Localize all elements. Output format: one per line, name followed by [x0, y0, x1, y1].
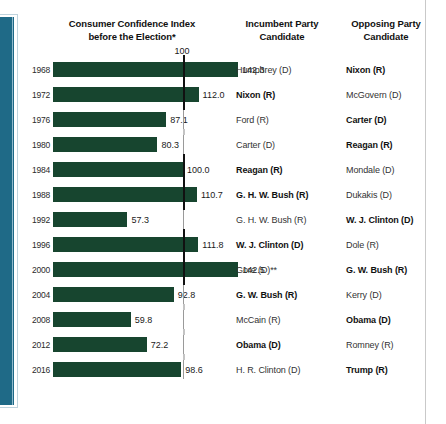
row-year-label: 2000 — [22, 265, 50, 275]
bar — [53, 62, 238, 77]
opposing-candidate: McGovern (D) — [346, 90, 401, 100]
table-row: 200859.8McCain (R)Obama (D) — [0, 308, 446, 333]
bar — [53, 212, 127, 227]
incumbent-candidate: Reagan (R) — [236, 165, 283, 175]
incumbent-candidate: G. H. W. Bush (R) — [236, 190, 308, 200]
bar — [53, 312, 131, 327]
opposing-candidate: W. J. Clinton (D) — [346, 215, 413, 225]
table-row: 2000142.5Gore (D)**G. W. Bush (R) — [0, 258, 446, 283]
bar — [53, 112, 166, 127]
opposing-candidate: Reagan (R) — [346, 140, 393, 150]
table-row: 1972112.0Nixon (R)McGovern (D) — [0, 83, 446, 108]
opposing-candidate: Mondale (D) — [346, 165, 394, 175]
table-row: 197687.1Ford (R)Carter (D) — [0, 108, 446, 133]
incumbent-candidate: Humphrey (D) — [236, 65, 291, 75]
row-year-label: 1980 — [22, 140, 50, 150]
incumbent-column-header: Incumbent Party Candidate — [228, 18, 336, 43]
incumbent-candidate: Ford (R) — [236, 115, 269, 125]
opposing-column-header: Opposing Party Candidate — [336, 18, 436, 43]
bar-value-label: 112.0 — [203, 90, 225, 100]
bar-value-label: 87.1 — [170, 115, 188, 125]
bar-value-label: 92.8 — [178, 290, 196, 300]
bar-value-label: 100.0 — [187, 165, 210, 175]
row-year-label: 1976 — [22, 115, 50, 125]
table-row: 200492.8G. W. Bush (R)Kerry (D) — [0, 283, 446, 308]
incumbent-header-line2: Candidate — [259, 31, 304, 42]
table-row: 1968142.3Humphrey (D)Nixon (R) — [0, 58, 446, 83]
row-year-label: 2012 — [22, 340, 50, 350]
row-year-label: 2016 — [22, 365, 50, 375]
row-year-label: 1972 — [22, 90, 50, 100]
infographic-page: Consumer Confidence Index before the Ele… — [0, 0, 446, 424]
table-row: 1988110.7G. H. W. Bush (R)Dukakis (D) — [0, 183, 446, 208]
incumbent-candidate: W. J. Clinton (D) — [236, 240, 303, 250]
bar-value-label: 110.7 — [201, 190, 223, 200]
row-year-label: 1988 — [22, 190, 50, 200]
table-row: 1984100.0Reagan (R)Mondale (D) — [0, 158, 446, 183]
bar-value-label: 98.6 — [185, 365, 203, 375]
row-year-label: 1968 — [22, 65, 50, 75]
bar — [53, 162, 183, 177]
bar — [53, 337, 147, 352]
opposing-candidate: Carter (D) — [346, 115, 387, 125]
bar-value-label: 57.3 — [131, 215, 149, 225]
row-year-label: 1984 — [22, 165, 50, 175]
table-row: 1996111.8W. J. Clinton (D)Dole (R) — [0, 233, 446, 258]
opposing-candidate: Trump (R) — [346, 365, 388, 375]
row-year-label: 1992 — [22, 215, 50, 225]
bar — [53, 237, 198, 252]
incumbent-candidate: Carter (D) — [236, 140, 275, 150]
opposing-candidate: Nixon (R) — [346, 65, 385, 75]
bar — [53, 137, 157, 152]
row-year-label: 2004 — [22, 290, 50, 300]
table-row: 199257.3G. H. W. Bush (R)W. J. Clinton (… — [0, 208, 446, 233]
opposing-candidate: G. W. Bush (R) — [346, 265, 407, 275]
incumbent-header-line1: Incumbent Party — [246, 18, 319, 29]
chart-column-header: Consumer Confidence Index before the Ele… — [46, 18, 218, 43]
table-row: 198080.3Carter (D)Reagan (R) — [0, 133, 446, 158]
bar — [53, 287, 174, 302]
incumbent-candidate: G. W. Bush (R) — [236, 290, 297, 300]
bar — [53, 262, 238, 277]
incumbent-candidate: H. R. Clinton (D) — [236, 365, 300, 375]
table-row: 201272.2Obama (D)Romney (R) — [0, 333, 446, 358]
opposing-candidate: Romney (R) — [346, 340, 394, 350]
bar — [53, 187, 197, 202]
bar — [53, 87, 199, 102]
opposing-header-line2: Candidate — [363, 31, 408, 42]
row-year-label: 2008 — [22, 315, 50, 325]
row-year-label: 1996 — [22, 240, 50, 250]
bar-value-label: 72.2 — [151, 340, 169, 350]
bar-chart-plot-area: 1968142.3Humphrey (D)Nixon (R)1972112.0N… — [0, 58, 446, 398]
opposing-header-line1: Opposing Party — [351, 18, 420, 29]
incumbent-candidate: Gore (D)** — [236, 265, 277, 275]
opposing-candidate: Obama (D) — [346, 315, 391, 325]
incumbent-candidate: McCain (R) — [236, 315, 281, 325]
table-row: 201698.6H. R. Clinton (D)Trump (R) — [0, 358, 446, 383]
incumbent-candidate: Obama (D) — [236, 340, 281, 350]
incumbent-candidate: Nixon (R) — [236, 90, 275, 100]
bar — [53, 362, 181, 377]
bar-value-label: 80.3 — [161, 140, 179, 150]
bar-value-label: 59.8 — [135, 315, 153, 325]
chart-title-line2: before the Election* — [88, 31, 175, 42]
axis-tick-label-100: 100 — [164, 46, 200, 56]
opposing-candidate: Dukakis (D) — [346, 190, 392, 200]
chart-title-line1: Consumer Confidence Index — [69, 18, 195, 29]
bar-value-label: 111.8 — [202, 240, 223, 250]
opposing-candidate: Dole (R) — [346, 240, 379, 250]
incumbent-candidate: G. H. W. Bush (R) — [236, 215, 306, 225]
opposing-candidate: Kerry (D) — [346, 290, 382, 300]
